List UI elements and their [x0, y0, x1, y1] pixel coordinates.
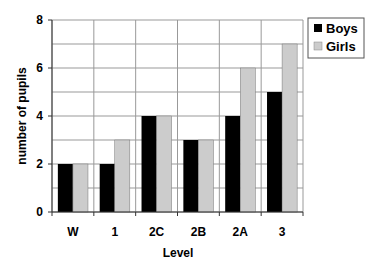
y-tick-label: 8	[36, 13, 43, 27]
x-tick-label: 2B	[191, 225, 207, 239]
y-axis-ticks: 02468	[36, 13, 43, 219]
x-tick-label: W	[67, 225, 79, 239]
legend-label-boys: Boys	[326, 21, 358, 36]
y-tick-label: 2	[36, 157, 43, 171]
grid-lines	[52, 20, 303, 212]
legend: Boys Girls	[308, 18, 364, 58]
bar-boys-2B	[183, 140, 198, 212]
bar-girls-2C	[157, 116, 172, 212]
y-tick-label: 6	[36, 61, 43, 75]
bar-boys-2A	[225, 116, 240, 212]
bar-boys-1	[100, 164, 115, 212]
bar-girls-2A	[240, 68, 255, 212]
x-axis-ticks: W12C2B2A3	[67, 225, 285, 239]
bar-girls-W	[73, 164, 88, 212]
bar-chart: 02468 W12C2B2A3 Level number of pupils B…	[0, 0, 383, 270]
legend-swatch-boys	[314, 24, 322, 32]
y-tick-label: 4	[36, 109, 43, 123]
legend-swatch-girls	[314, 42, 322, 50]
x-tick-label: 2C	[149, 225, 165, 239]
x-tick-label: 3	[279, 225, 286, 239]
bar-boys-2C	[142, 116, 157, 212]
y-axis-title: number of pupils	[15, 67, 29, 165]
x-tick-label: 2A	[233, 225, 249, 239]
bar-girls-1	[115, 140, 130, 212]
bar-girls-2B	[198, 140, 213, 212]
x-tick-label: 1	[111, 225, 118, 239]
bar-boys-W	[58, 164, 73, 212]
x-axis-title: Level	[163, 246, 194, 260]
bar-girls-3	[282, 44, 297, 212]
y-tick-label: 0	[36, 205, 43, 219]
legend-label-girls: Girls	[326, 39, 356, 54]
bar-boys-3	[267, 92, 282, 212]
